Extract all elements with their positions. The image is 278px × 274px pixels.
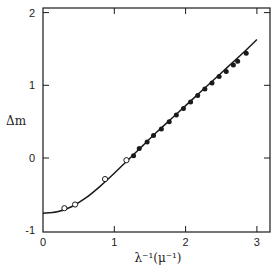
filled-data-point bbox=[167, 119, 172, 124]
x-axis-label: λ⁻¹(μ⁻¹) bbox=[134, 251, 181, 265]
open-data-point bbox=[62, 206, 67, 211]
filled-data-point bbox=[217, 74, 222, 79]
filled-data-point bbox=[235, 59, 240, 64]
y-tick-label: 1 bbox=[29, 79, 35, 91]
y-tick-label: -1 bbox=[25, 224, 35, 236]
filled-data-point bbox=[159, 126, 164, 131]
filled-data-point bbox=[188, 100, 193, 105]
x-tick-label: 3 bbox=[254, 236, 260, 248]
y-tick-label: 2 bbox=[29, 7, 35, 19]
filled-data-point bbox=[181, 106, 186, 111]
data-series bbox=[43, 39, 257, 213]
chart: 0123-1012 Δm λ⁻¹(μ⁻¹) bbox=[0, 0, 278, 274]
x-tick-label: 1 bbox=[111, 236, 117, 248]
open-data-point bbox=[72, 202, 77, 207]
x-tick-label: 2 bbox=[183, 236, 189, 248]
filled-data-point bbox=[145, 140, 150, 145]
filled-data-point bbox=[174, 113, 179, 118]
filled-data-point bbox=[209, 81, 214, 86]
filled-data-point bbox=[244, 51, 249, 56]
fit-curve bbox=[43, 39, 257, 213]
filled-data-point bbox=[151, 133, 156, 138]
filled-data-point bbox=[231, 62, 236, 67]
tick-labels: 0123-1012 bbox=[25, 7, 260, 248]
open-data-point bbox=[102, 176, 107, 181]
filled-data-point bbox=[131, 153, 136, 158]
y-axis-label: Δm bbox=[6, 114, 27, 128]
filled-data-point bbox=[202, 86, 207, 91]
x-tick-label: 0 bbox=[40, 236, 46, 248]
plot-frame bbox=[43, 8, 270, 232]
filled-data-point bbox=[224, 69, 229, 74]
filled-data-point bbox=[137, 146, 142, 151]
axis-ticks bbox=[43, 8, 270, 232]
y-tick-label: 0 bbox=[29, 152, 35, 164]
filled-data-point bbox=[195, 93, 200, 98]
open-data-point bbox=[124, 158, 129, 163]
plot-border bbox=[43, 8, 270, 232]
